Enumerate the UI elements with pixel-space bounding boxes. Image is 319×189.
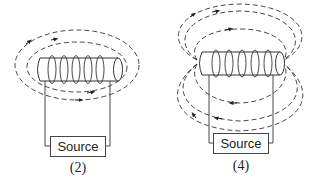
- source-label: Source: [57, 139, 98, 154]
- solenoid-end: [114, 58, 123, 81]
- figure-2-solenoid: [15, 30, 139, 146]
- field-arrow: [193, 114, 196, 118]
- field-arrow: [190, 14, 194, 17]
- solenoid-core: [38, 58, 119, 81]
- field-loop-upper-inner: [195, 29, 286, 60]
- coil-turns: [212, 50, 272, 77]
- field-loop-lower-inner: [195, 64, 286, 103]
- source-box-2: Source: [50, 136, 106, 157]
- field-arrow: [216, 118, 222, 119]
- field-arrow: [26, 41, 30, 44]
- coil-turns: [48, 56, 104, 84]
- source-label: Source: [220, 136, 261, 151]
- field-arrow: [212, 11, 218, 12]
- figure-caption-4: (4): [221, 158, 261, 174]
- figure-4-solenoid: [177, 4, 302, 143]
- figure-caption-2: (2): [58, 160, 98, 176]
- field-arrow: [51, 39, 56, 40]
- field-arrow: [225, 29, 231, 30]
- diagram-canvas: [0, 0, 319, 189]
- field-arrow: [87, 92, 93, 93]
- source-box-4: Source: [213, 133, 269, 154]
- field-loop-inner: [27, 42, 127, 92]
- solenoid-end: [276, 52, 285, 75]
